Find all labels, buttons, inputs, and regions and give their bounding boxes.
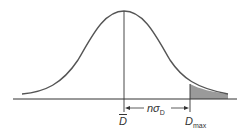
interval-label: nσD [147, 103, 165, 116]
dmax-label-sub: max [193, 122, 206, 129]
mean-label: D [119, 116, 127, 127]
dmax-label-main: D [185, 115, 193, 127]
shaded-tail-region [190, 84, 228, 99]
dmax-label: Dmax [185, 116, 206, 129]
interval-label-main: nσ [147, 102, 160, 114]
arrowhead-right-icon [184, 106, 189, 110]
arrowhead-left-icon [125, 106, 130, 110]
interval-label-sub: D [160, 109, 165, 116]
bell-curve [22, 11, 228, 94]
